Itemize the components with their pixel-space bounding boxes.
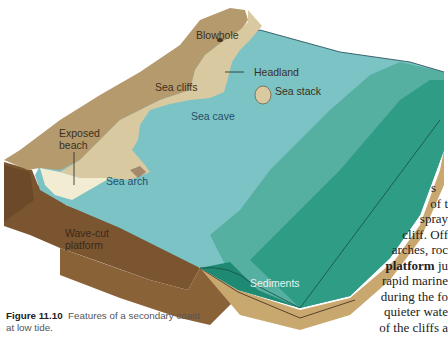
body-line: quieter wate (328, 304, 448, 320)
bold-term: platform (386, 258, 435, 273)
figure-number: Figure 11.10 (6, 310, 63, 321)
label-wave-cut-1: Wave-cut (65, 228, 109, 240)
body-line: spray (328, 211, 448, 227)
label-sediments: Sediments (250, 278, 300, 290)
body-line-bold: platform ju (328, 258, 448, 274)
body-text-column: s of t spray cliff. Off arches, roc plat… (328, 180, 448, 335)
label-sea-cliffs: Sea cliffs (155, 82, 197, 94)
sea-stack (255, 86, 271, 104)
label-sea-arch: Sea arch (106, 176, 148, 188)
body-line: s (328, 180, 448, 196)
label-exposed-beach-2: beach (59, 140, 88, 152)
body-line: arches, roc (328, 242, 448, 258)
label-blowhole: Blowhole (196, 30, 239, 42)
body-line: cliff. Off (328, 227, 448, 243)
body-line: during the fo (328, 289, 448, 305)
body-line: of the cliffs a (328, 320, 448, 336)
label-wave-cut-2: platform (65, 240, 103, 252)
figure-caption: Figure 11.10 Features of a secondary coa… (6, 310, 206, 334)
body-line: rapid marine (328, 273, 448, 289)
label-exposed-beach-1: Exposed (59, 128, 100, 140)
body-line: of t (328, 196, 448, 212)
label-sea-cave: Sea cave (191, 111, 235, 123)
label-sea-stack: Sea stack (275, 86, 321, 98)
label-headland: Headland (254, 67, 299, 79)
